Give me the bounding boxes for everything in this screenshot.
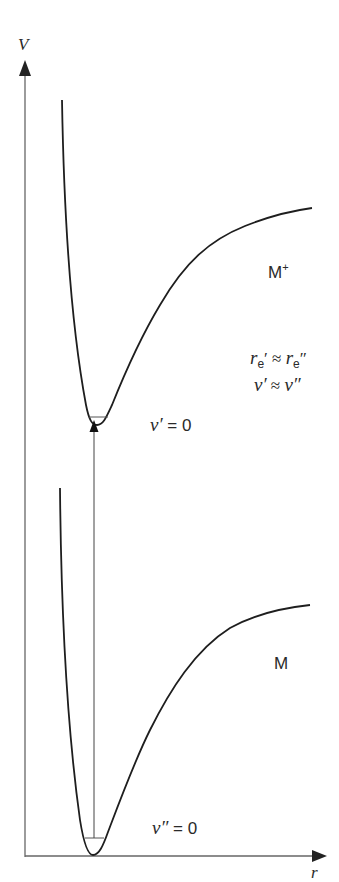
lower-state-label: M (274, 655, 288, 672)
upper-state-charge: + (282, 261, 288, 273)
vibrational-frequency-relation: ν′ ≈ ν″ (254, 375, 301, 394)
y-axis (19, 60, 31, 857)
vertical-transition-arrow (90, 420, 99, 838)
upper-state-label: M+ (268, 262, 289, 281)
lower-potential-curve (60, 488, 310, 855)
x-axis-arrow-icon (312, 850, 327, 862)
upper-level-label: v′ = 0 (150, 415, 191, 434)
y-axis-arrow-icon (19, 60, 31, 76)
equilibrium-distance-relation: re′ ≈ re″ (250, 348, 307, 370)
lower-level-label: v″ = 0 (152, 818, 197, 837)
upper-state-name: M (268, 263, 282, 282)
y-axis-label: V (18, 36, 28, 53)
x-axis (25, 850, 327, 862)
x-axis-label: r (311, 864, 318, 881)
